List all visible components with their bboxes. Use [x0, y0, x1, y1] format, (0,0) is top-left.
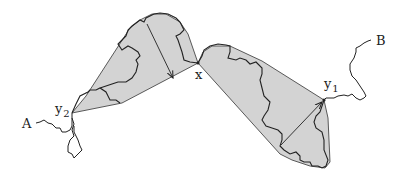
label-y2: y2 — [55, 102, 70, 115]
diagram-svg — [0, 0, 403, 178]
node-x — [196, 61, 199, 64]
left-hull — [72, 14, 198, 113]
label-y1-base: y — [324, 76, 331, 91]
label-b: B — [376, 34, 386, 47]
label-y2-base: y — [55, 101, 62, 116]
node-y1 — [322, 98, 325, 101]
label-a: A — [22, 117, 31, 130]
label-x: x — [195, 68, 202, 81]
diagram-canvas: A B x y1 y2 — [0, 0, 403, 178]
label-y1: y1 — [324, 77, 339, 90]
path-a-to-y2 — [36, 113, 82, 158]
label-y1-subscript: 1 — [332, 83, 338, 94]
label-y2-subscript: 2 — [63, 108, 69, 119]
right-hull — [198, 46, 330, 168]
